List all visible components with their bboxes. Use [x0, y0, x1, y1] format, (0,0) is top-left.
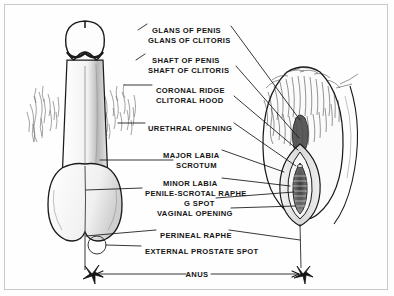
leader-major-labia-right: [222, 150, 284, 172]
label-g-spot: G SPOT: [184, 199, 215, 208]
leader-shaft-penis-left: [136, 54, 145, 60]
leader-urethral-opening-right: [234, 123, 296, 166]
label-urethral-opening: URETHRAL OPENING: [148, 124, 232, 133]
leader-penile-scrotal-raphe-left: [86, 188, 142, 190]
label-glans-of-clitoris: GLANS OF CLITORIS: [148, 36, 231, 45]
label-coronal-ridge: CORONAL RIDGE: [156, 86, 225, 95]
label-clitoral-hood: CLITORAL HOOD: [156, 96, 224, 105]
leader-perineal-raphe-right: [229, 230, 300, 240]
leader-minor-labia-right: [222, 178, 290, 186]
diagram-canvas: GLANS OF PENIS GLANS OF CLITORIS SHAFT O…: [0, 0, 394, 296]
label-glans-of-penis: GLANS OF PENIS: [152, 26, 221, 35]
label-scrotum: SCROTUM: [176, 161, 217, 170]
leader-perineal-raphe-left: [86, 230, 156, 236]
leader-external-prostate-left: [106, 245, 141, 246]
label-penile-scrotal-raphe: PENILE-SCROTAL RAPHE: [145, 189, 247, 198]
label-vaginal-opening: VAGINAL OPENING: [157, 209, 233, 218]
label-major-labia: MAJOR LABIA: [163, 151, 220, 160]
leader-vaginal-opening-right: [231, 206, 296, 208]
leader-glans-clitoris-right: [231, 26, 300, 120]
label-anus: ANUS: [186, 270, 209, 279]
label-shaft-of-clitoris: SHAFT OF CLITORIS: [148, 66, 229, 75]
label-shaft-of-penis: SHAFT OF PENIS: [152, 56, 220, 65]
label-external-prostate-spot: EXTERNAL PROSTATE SPOT: [145, 247, 259, 256]
leader-glans-penis-left: [138, 24, 147, 30]
label-perineal-raphe: PERINEAL RAPHE: [160, 231, 232, 240]
label-minor-labia: MINOR LABIA: [163, 179, 217, 188]
leader-shaft-clitoris-right: [236, 66, 299, 138]
